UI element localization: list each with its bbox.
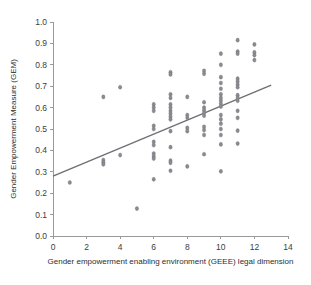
axis-labels: Gender empowerment enabling environment … bbox=[9, 59, 293, 266]
x-tick-label: 10 bbox=[216, 242, 226, 252]
y-tick-label: 0.3 bbox=[35, 167, 47, 177]
data-point bbox=[202, 128, 205, 132]
data-point bbox=[219, 122, 222, 126]
data-point bbox=[236, 109, 239, 113]
data-point bbox=[202, 100, 205, 104]
data-point bbox=[68, 180, 71, 184]
x-tick-label: 12 bbox=[250, 242, 260, 252]
data-point bbox=[236, 99, 239, 103]
data-point bbox=[236, 129, 239, 133]
x-axis: 02468101214 bbox=[51, 236, 293, 252]
data-point bbox=[236, 52, 239, 56]
y-tick-label: 0.9 bbox=[35, 38, 47, 48]
data-point bbox=[186, 129, 189, 133]
data-point bbox=[169, 169, 172, 173]
x-tick-label: 2 bbox=[84, 242, 89, 252]
data-point bbox=[219, 142, 222, 146]
data-point bbox=[236, 38, 239, 42]
data-point bbox=[202, 114, 205, 118]
x-tick-label: 6 bbox=[151, 242, 156, 252]
y-tick-label: 1.0 bbox=[35, 17, 47, 27]
data-point bbox=[219, 169, 222, 173]
data-point bbox=[169, 72, 172, 76]
data-point bbox=[253, 42, 256, 46]
scatter-chart: 0.00.10.20.30.40.50.60.70.80.91.0 024681… bbox=[0, 0, 311, 285]
data-point bbox=[219, 63, 222, 67]
data-point bbox=[169, 117, 172, 121]
y-axis-title: Gender Empowerment Measure (GEM) bbox=[9, 59, 18, 199]
data-point bbox=[202, 133, 205, 137]
data-point bbox=[118, 153, 121, 157]
data-point bbox=[152, 143, 155, 147]
data-point bbox=[219, 75, 222, 79]
data-point bbox=[152, 127, 155, 131]
data-point bbox=[102, 95, 105, 99]
y-tick-label: 0.2 bbox=[35, 188, 47, 198]
data-point bbox=[202, 72, 205, 76]
data-point bbox=[253, 58, 256, 62]
x-tick-label: 0 bbox=[51, 242, 56, 252]
data-point bbox=[202, 152, 205, 156]
data-point bbox=[219, 117, 222, 121]
data-point bbox=[152, 156, 155, 160]
plot-area: 0.00.10.20.30.40.50.60.70.80.91.0 024681… bbox=[0, 0, 311, 285]
x-tick-label: 14 bbox=[283, 242, 293, 252]
data-point bbox=[135, 207, 138, 211]
y-tick-label: 0.1 bbox=[35, 210, 47, 220]
data-point bbox=[118, 85, 121, 89]
data-point bbox=[152, 177, 155, 181]
x-axis-title: Gender empowerment enabling environment … bbox=[48, 257, 294, 266]
data-point bbox=[219, 81, 222, 85]
data-point bbox=[169, 161, 172, 165]
data-point bbox=[219, 87, 222, 91]
x-tick-label: 8 bbox=[185, 242, 190, 252]
data-point bbox=[102, 162, 105, 166]
data-point bbox=[253, 53, 256, 57]
y-tick-label: 0.6 bbox=[35, 103, 47, 113]
y-tick-label: 0.8 bbox=[35, 60, 47, 70]
x-tick-label: 4 bbox=[118, 242, 123, 252]
y-tick-label: 0.5 bbox=[35, 124, 47, 134]
data-point bbox=[186, 164, 189, 168]
data-point bbox=[236, 141, 239, 145]
y-axis: 0.00.10.20.30.40.50.60.70.80.91.0 bbox=[35, 17, 53, 241]
data-point bbox=[186, 116, 189, 120]
data-point bbox=[219, 104, 222, 108]
y-tick-label: 0.7 bbox=[35, 81, 47, 91]
data-point bbox=[219, 127, 222, 131]
y-tick-label: 0.0 bbox=[35, 231, 47, 241]
data-point bbox=[169, 145, 172, 149]
data-point bbox=[219, 133, 222, 137]
data-point bbox=[152, 109, 155, 113]
data-point bbox=[236, 116, 239, 120]
data-point bbox=[169, 96, 172, 100]
data-point bbox=[219, 52, 222, 56]
data-points bbox=[68, 38, 256, 211]
data-point bbox=[169, 129, 172, 133]
data-point bbox=[186, 95, 189, 99]
data-point bbox=[236, 85, 239, 89]
data-point bbox=[219, 113, 222, 117]
y-tick-label: 0.4 bbox=[35, 145, 47, 155]
